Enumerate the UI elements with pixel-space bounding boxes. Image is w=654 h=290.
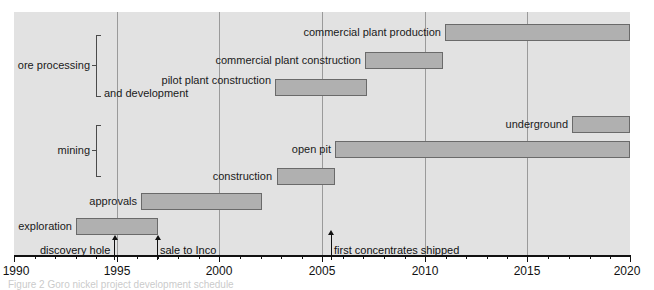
x-tick-1996	[137, 255, 138, 259]
chart-plot-area: commercial plant production commercial p…	[14, 12, 630, 255]
group-brace-mining	[96, 125, 101, 177]
task-label-exploration: exploration	[0, 220, 72, 233]
gridline-2015	[527, 12, 528, 255]
x-tick-2008	[384, 255, 385, 259]
x-tick-2006	[343, 255, 344, 259]
task-label-commercial-plant-construction: commercial plant construction	[154, 54, 361, 67]
group-brace-ore-processing	[96, 35, 101, 97]
x-tick-2011	[446, 255, 447, 259]
x-tick-1993	[76, 255, 77, 259]
x-tick-label-2015: 2015	[514, 264, 541, 278]
task-label-underground: underground	[464, 118, 568, 131]
task-bar-pilot-plant-construction[interactable]	[275, 79, 367, 96]
x-tick-major-2015	[527, 255, 528, 262]
x-tick-label-2000: 2000	[206, 264, 233, 278]
x-tick-label-2020: 2020	[614, 264, 641, 278]
group-label-mining: mining	[14, 144, 90, 156]
task-label-pilot-plant-construction-line2: and development	[104, 87, 271, 100]
x-tick-2007	[363, 255, 364, 259]
x-tick-2003	[281, 255, 282, 259]
gridline-2000	[219, 12, 220, 255]
x-tick-1998	[178, 255, 179, 259]
annotation-stem-discovery-hole	[114, 240, 115, 260]
x-tick-label-2005: 2005	[309, 264, 336, 278]
task-bar-approvals[interactable]	[141, 193, 262, 210]
task-label-pilot-plant-construction-line1: pilot plant construction	[104, 74, 271, 87]
x-tick-major-2005	[322, 255, 323, 262]
x-tick-major-2000	[219, 255, 220, 262]
group-label-ore-processing: ore processing	[14, 59, 90, 71]
group-brace-nub-ore-processing	[92, 65, 96, 66]
group-brace-nub-mining	[92, 150, 96, 151]
task-bar-commercial-plant-construction[interactable]	[365, 52, 443, 69]
x-tick-2016	[548, 255, 549, 259]
x-tick-1991	[35, 255, 36, 259]
x-tick-major-2020	[630, 255, 631, 262]
task-bar-underground[interactable]	[572, 116, 630, 133]
x-tick-2018	[590, 255, 591, 259]
x-tick-1999	[199, 255, 200, 259]
gridline-2010	[425, 12, 426, 255]
x-tick-2012	[466, 255, 467, 259]
x-tick-2002	[261, 255, 262, 259]
x-tick-2009	[405, 255, 406, 259]
task-bar-commercial-plant-production[interactable]	[445, 24, 630, 41]
figure-caption: Figure 2 Goro nickel project development…	[8, 279, 234, 290]
x-tick-1992	[55, 255, 56, 259]
x-tick-2017	[569, 255, 570, 259]
task-bar-construction[interactable]	[277, 168, 336, 185]
x-tick-major-1995	[117, 255, 118, 262]
task-label-construction: construction	[172, 170, 272, 183]
x-tick-1997	[158, 255, 159, 259]
x-tick-major-2010	[425, 255, 426, 262]
x-tick-2019	[610, 255, 611, 259]
task-label-open-pit: open pit	[264, 143, 331, 156]
x-tick-2001	[240, 255, 241, 259]
task-label-approvals: approvals	[56, 195, 137, 208]
task-bar-open-pit[interactable]	[335, 141, 630, 158]
x-tick-2014	[507, 255, 508, 259]
x-tick-label-1995: 1995	[104, 264, 131, 278]
x-tick-major-1990	[14, 255, 15, 262]
x-tick-label-1990: 1990	[3, 264, 30, 278]
x-tick-2013	[487, 255, 488, 259]
gridline-2005	[322, 12, 323, 255]
x-tick-2004	[302, 255, 303, 259]
x-tick-label-2010: 2010	[412, 264, 439, 278]
x-tick-1994	[96, 255, 97, 259]
task-bar-exploration[interactable]	[76, 218, 158, 235]
task-label-commercial-plant-production: commercial plant production	[245, 26, 441, 39]
